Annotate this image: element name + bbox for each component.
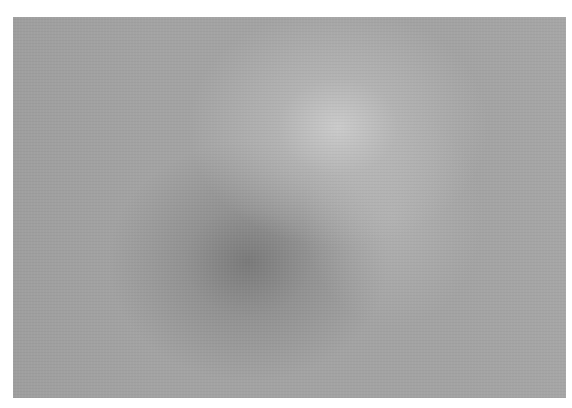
photo-frame: [13, 17, 566, 398]
grain-texture: [13, 17, 566, 398]
